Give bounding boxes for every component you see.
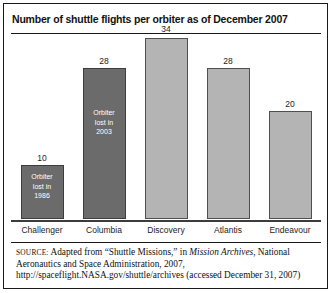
plot-area: 10 Orbiter lost in 1986 28 Orbiter lost … [11, 38, 321, 222]
x-label-challenger: Challenger [11, 225, 73, 235]
x-axis-line [11, 220, 321, 222]
bar-value-endeavour: 20 [259, 99, 321, 109]
bar-challenger[interactable]: Orbiter lost in 1986 [21, 165, 64, 219]
bar-slot-discovery: 34 [135, 38, 197, 219]
bar-value-challenger: 10 [11, 153, 73, 163]
x-label-endeavour: Endeavour [259, 225, 321, 235]
source-divider [11, 242, 321, 243]
bar-value-atlantis: 28 [197, 56, 259, 66]
source-italic-title: Mission Archives [189, 247, 253, 257]
source-label: SOURCE: [16, 248, 49, 257]
x-label-columbia: Columbia [73, 225, 135, 235]
bar-slot-endeavour: 20 [259, 38, 321, 219]
bar-endeavour[interactable] [269, 111, 312, 219]
bar-annotation-columbia: Orbiter lost in 2003 [93, 69, 114, 137]
x-label-discovery: Discovery [135, 225, 197, 235]
bar-slot-columbia: 28 Orbiter lost in 2003 [73, 38, 135, 219]
bar-annotation-challenger: Orbiter lost in 1986 [31, 166, 52, 201]
source-text-1: Adapted from “Shuttle Missions,” in [49, 247, 190, 257]
chart-figure: Number of shuttle flights per orbiter as… [3, 3, 328, 289]
bar-discovery[interactable] [145, 38, 188, 219]
bar-value-columbia: 28 [73, 56, 135, 66]
bar-columbia[interactable]: Orbiter lost in 2003 [83, 68, 126, 219]
x-axis-labels: Challenger Columbia Discovery Atlantis E… [11, 225, 321, 235]
bar-group: 10 Orbiter lost in 1986 28 Orbiter lost … [11, 38, 321, 219]
bar-slot-atlantis: 28 [197, 38, 259, 219]
bar-value-discovery: 34 [135, 24, 197, 34]
source-note: SOURCE: Adapted from “Shuttle Missions,”… [16, 247, 318, 282]
bar-atlantis[interactable] [207, 68, 250, 219]
bar-slot-challenger: 10 Orbiter lost in 1986 [11, 38, 73, 219]
x-label-atlantis: Atlantis [197, 225, 259, 235]
